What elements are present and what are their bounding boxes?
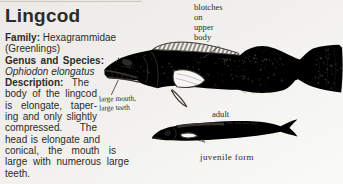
family-label: Family: xyxy=(5,32,40,43)
mouth-annotation-line: large mouth, xyxy=(99,93,136,103)
description-label: Description: xyxy=(5,77,63,88)
description-line: conical, the mouth is xyxy=(5,145,116,156)
family-value: Hexagrammidae xyxy=(43,32,116,43)
description-line: large with numerous large xyxy=(5,156,129,167)
genus-label-line: Genus and Species: xyxy=(5,55,104,66)
mouth-annotation: large mouth, large teeth xyxy=(99,93,137,112)
juvenile-label: juvenile form xyxy=(200,152,254,162)
mouth-annotation-line: large teeth xyxy=(99,102,136,112)
adult-fish-drawing xyxy=(105,42,343,135)
description-line: head is elongate and xyxy=(5,134,100,145)
description-line: Description: The xyxy=(5,77,89,88)
description-line: body of the lingcod xyxy=(5,88,97,99)
description-line: ing and only slightly xyxy=(5,111,97,122)
blotches-annotation-line: body xyxy=(194,33,223,43)
juvenile-fish-drawing xyxy=(152,119,298,142)
description-line: is elongate, taper- xyxy=(5,100,97,111)
description-line: teeth. xyxy=(5,168,137,179)
page-title: Lingcod xyxy=(5,5,80,27)
blotches-annotation: blotches on upper body xyxy=(194,3,223,43)
pelvic-fin xyxy=(172,90,187,107)
family-note-line: (Greenlings) xyxy=(5,43,137,54)
description-intro: The xyxy=(72,77,89,88)
field-guide-page: Lingcod Family: Hexagrammidae (Greenling… xyxy=(0,0,343,184)
description-line: compressed. The xyxy=(5,122,97,133)
species-name-line: Ophiodon elongatus xyxy=(5,66,137,77)
family-line: Family: Hexagrammidae xyxy=(5,32,137,43)
adult-label: adult xyxy=(212,110,229,119)
